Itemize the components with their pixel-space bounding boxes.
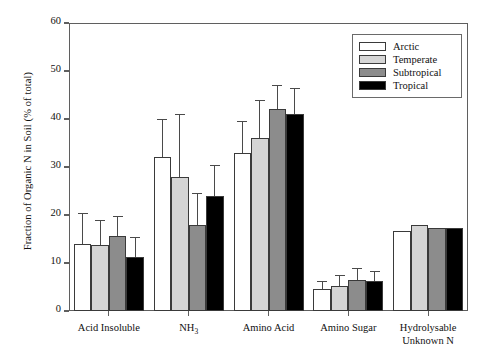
legend-label-tropical: Tropical bbox=[393, 80, 428, 91]
bar-subtropical-amino-acid bbox=[269, 109, 287, 311]
error-bar-stem bbox=[242, 121, 243, 152]
error-bar-stem bbox=[179, 114, 180, 176]
y-tick-label: 40 bbox=[51, 111, 62, 122]
error-bar-cap bbox=[210, 165, 220, 166]
error-bar-cap bbox=[157, 119, 167, 120]
error-bar-tropical-nh3 bbox=[210, 165, 220, 196]
error-bar-arctic-nh3 bbox=[157, 119, 167, 157]
error-bar-arctic-amino-acid bbox=[237, 121, 247, 152]
error-bar-temperate-amino-sugar bbox=[335, 275, 345, 286]
chart-page: Fraction of Organic N in Soil (% of tota… bbox=[0, 0, 488, 358]
error-bar-cap bbox=[95, 220, 105, 221]
legend-item-arctic: Arctic bbox=[359, 40, 455, 53]
error-bar-cap bbox=[370, 271, 380, 272]
error-bar-cap bbox=[290, 88, 300, 89]
x-tick-mark bbox=[428, 311, 429, 316]
error-bar-stem bbox=[374, 271, 375, 281]
bar-subtropical-nh3 bbox=[189, 225, 207, 311]
error-bar-stem bbox=[82, 213, 83, 244]
error-bar-cap bbox=[237, 121, 247, 122]
bar-temperate-acid-insoluble bbox=[91, 245, 109, 311]
error-bar-cap bbox=[113, 216, 123, 217]
error-bar-tropical-acid-insoluble bbox=[130, 237, 140, 258]
bar-arctic-acid-insoluble bbox=[74, 244, 92, 311]
error-bar-stem bbox=[197, 193, 198, 224]
error-bar-temperate-nh3 bbox=[175, 114, 185, 176]
error-bar-cap bbox=[335, 275, 345, 276]
bar-tropical-acid-insoluble bbox=[126, 257, 144, 311]
error-bar-cap bbox=[272, 85, 282, 86]
legend-label-temperate: Temperate bbox=[393, 54, 437, 65]
bar-arctic-amino-acid bbox=[234, 153, 252, 311]
legend-item-tropical: Tropical bbox=[359, 79, 455, 92]
error-bar-stem bbox=[322, 281, 323, 290]
error-bar-cap bbox=[130, 237, 140, 238]
y-tick-label: 50 bbox=[51, 63, 62, 74]
bar-subtropical-amino-sugar bbox=[348, 280, 366, 311]
bar-subtropical-acid-insoluble bbox=[109, 236, 127, 311]
error-bar-stem bbox=[117, 216, 118, 236]
bar-arctic-nh3 bbox=[154, 157, 172, 311]
y-tick-label: 20 bbox=[51, 207, 62, 218]
y-tick-label: 10 bbox=[51, 255, 62, 266]
error-bar-stem bbox=[214, 165, 215, 196]
x-tick-mark bbox=[268, 311, 269, 316]
error-bar-arctic-acid-insoluble bbox=[78, 213, 88, 244]
bar-temperate-nh3 bbox=[171, 177, 189, 311]
error-bar-stem bbox=[339, 275, 340, 286]
legend-item-temperate: Temperate bbox=[359, 53, 455, 66]
legend-swatch-subtropical bbox=[359, 68, 386, 77]
bar-subtropical-hydrolysable-unknown-n bbox=[428, 228, 446, 311]
error-bar-stem bbox=[135, 237, 136, 258]
legend-swatch-temperate bbox=[359, 55, 386, 64]
bar-tropical-nh3 bbox=[206, 196, 224, 311]
error-bar-cap bbox=[352, 268, 362, 269]
error-bar-arctic-amino-sugar bbox=[317, 281, 327, 290]
error-bar-cap bbox=[175, 114, 185, 115]
legend-label-arctic: Arctic bbox=[393, 41, 419, 52]
y-axis-title: Fraction of Organic N in Soil (% of tota… bbox=[22, 11, 44, 311]
y-tick-label: 30 bbox=[51, 159, 62, 170]
bar-tropical-hydrolysable-unknown-n bbox=[446, 228, 464, 311]
error-bar-stem bbox=[162, 119, 163, 157]
x-tick-mark bbox=[108, 311, 109, 316]
legend-swatch-tropical bbox=[359, 81, 386, 90]
error-bar-subtropical-amino-acid bbox=[272, 85, 282, 109]
y-tick-label: 60 bbox=[51, 15, 62, 26]
bar-temperate-amino-acid bbox=[251, 138, 269, 311]
error-bar-cap bbox=[78, 213, 88, 214]
error-bar-stem bbox=[259, 100, 260, 138]
x-tick-mark bbox=[188, 311, 189, 316]
error-bar-cap bbox=[255, 100, 265, 101]
error-bar-temperate-acid-insoluble bbox=[95, 220, 105, 245]
legend-swatch-arctic bbox=[359, 42, 386, 51]
x-tick-label: HydrolysableUnknown N bbox=[368, 321, 488, 347]
error-bar-stem bbox=[294, 88, 295, 114]
legend-label-subtropical: Subtropical bbox=[393, 67, 441, 78]
error-bar-cap bbox=[192, 193, 202, 194]
error-bar-subtropical-nh3 bbox=[192, 193, 202, 224]
legend: ArcticTemperateSubtropicalTropical bbox=[352, 34, 462, 98]
error-bar-tropical-amino-sugar bbox=[370, 271, 380, 281]
legend-item-subtropical: Subtropical bbox=[359, 66, 455, 79]
error-bar-cap bbox=[317, 281, 327, 282]
bar-tropical-amino-sugar bbox=[366, 281, 384, 311]
bar-temperate-hydrolysable-unknown-n bbox=[411, 225, 429, 311]
x-tick-mark bbox=[348, 311, 349, 316]
bar-tropical-amino-acid bbox=[286, 114, 304, 311]
error-bar-subtropical-acid-insoluble bbox=[113, 216, 123, 236]
error-bar-temperate-amino-acid bbox=[255, 100, 265, 138]
error-bar-stem bbox=[357, 268, 358, 280]
y-tick-label: 0 bbox=[56, 303, 61, 314]
error-bar-tropical-amino-acid bbox=[290, 88, 300, 114]
bar-arctic-hydrolysable-unknown-n bbox=[393, 231, 411, 311]
bar-arctic-amino-sugar bbox=[313, 289, 331, 311]
error-bar-subtropical-amino-sugar bbox=[352, 268, 362, 280]
error-bar-stem bbox=[100, 220, 101, 245]
error-bar-stem bbox=[277, 85, 278, 109]
bar-temperate-amino-sugar bbox=[331, 286, 349, 311]
